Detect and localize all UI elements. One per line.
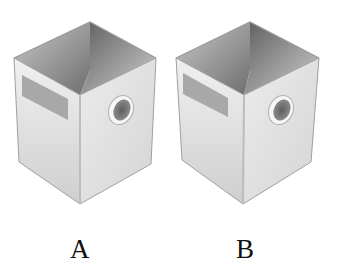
box-a xyxy=(14,22,156,204)
box-b xyxy=(176,22,319,204)
box-b-front-edge xyxy=(243,95,244,204)
box-a-illustration xyxy=(0,0,337,274)
panel-label-a: A xyxy=(70,236,90,263)
figure: A B xyxy=(0,0,337,274)
panel-label-b: B xyxy=(236,236,254,263)
